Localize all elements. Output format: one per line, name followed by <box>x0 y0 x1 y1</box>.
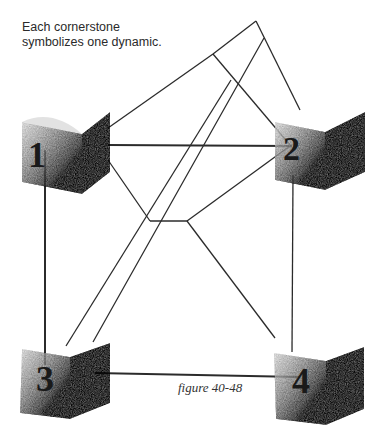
line-box1-to-box2 <box>108 145 292 146</box>
connector-lines <box>45 21 300 377</box>
line-center-to-box2 <box>187 146 290 221</box>
figure-label: figure 40-48 <box>178 380 242 396</box>
line-apex-to-box2 <box>256 21 300 110</box>
line-apex-to-box3-a <box>93 38 264 342</box>
cornerstone-2-label: 2 <box>283 130 300 167</box>
line-box2-to-box4 <box>292 175 293 352</box>
line-box1-to-upper-node <box>108 54 213 128</box>
line-box3-to-box4 <box>95 373 300 377</box>
diagram-canvas: 1 2 3 4 Each cornerstone symbolizes one … <box>0 0 386 441</box>
line-box1-to-center <box>108 160 150 221</box>
diagram-caption: Each cornerstone symbolizes one dynamic. <box>22 20 162 50</box>
cornerstone-4: 4 <box>274 347 364 425</box>
diagram-svg: 1 2 3 4 <box>0 0 386 441</box>
caption-line-1: Each cornerstone <box>22 20 162 35</box>
cornerstone-1-label: 1 <box>28 135 46 175</box>
line-center-to-box4 <box>187 221 275 338</box>
line-apex-to-box3-b <box>66 80 231 346</box>
line-upper-node-to-apex <box>213 21 256 54</box>
cornerstone-3: 3 <box>20 343 110 419</box>
cornerstone-2: 2 <box>275 112 365 190</box>
cornerstone-3-label: 3 <box>36 359 54 399</box>
cornerstone-1: 1 <box>22 112 110 194</box>
caption-line-2: symbolizes one dynamic. <box>22 35 162 50</box>
cornerstone-4-label: 4 <box>292 361 310 401</box>
